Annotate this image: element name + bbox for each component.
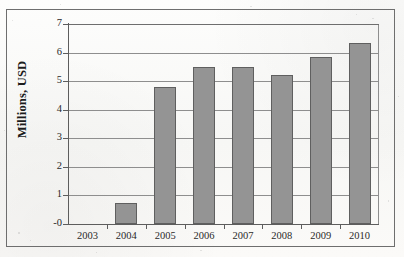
gridline bbox=[68, 24, 379, 25]
y-axis-tick-label: 7 bbox=[22, 18, 62, 29]
x-axis-tick-label: 2007 bbox=[221, 231, 265, 242]
x-axis-tick bbox=[262, 224, 263, 229]
x-axis-tick-label: 2009 bbox=[299, 231, 343, 242]
y-axis-tick bbox=[63, 24, 69, 25]
y-axis-tick-label: 2 bbox=[22, 161, 62, 172]
y-axis-tick bbox=[63, 195, 69, 196]
bar bbox=[115, 203, 137, 224]
bar bbox=[154, 87, 176, 224]
x-axis-tick bbox=[146, 224, 147, 229]
x-axis-tick bbox=[224, 224, 225, 229]
x-axis-tick bbox=[340, 224, 341, 229]
gridline bbox=[68, 167, 379, 168]
y-axis-tick bbox=[63, 53, 69, 54]
gridline bbox=[68, 53, 379, 54]
gridline bbox=[68, 138, 379, 139]
x-axis-tick-label: 2005 bbox=[143, 231, 187, 242]
gridline bbox=[68, 81, 379, 82]
bar bbox=[232, 67, 254, 224]
x-axis-tick bbox=[301, 224, 302, 229]
y-axis-tick bbox=[63, 167, 69, 168]
y-axis-tick bbox=[63, 81, 69, 82]
y-axis-tick-label: 5 bbox=[22, 75, 62, 86]
y-axis-tick-label: 4 bbox=[22, 104, 62, 115]
x-axis-tick bbox=[185, 224, 186, 229]
gridline bbox=[68, 110, 379, 111]
x-axis-tick-label: 2004 bbox=[104, 231, 148, 242]
bar bbox=[310, 57, 332, 224]
y-axis-tick-label: 3 bbox=[22, 132, 62, 143]
x-axis-tick-label: 2008 bbox=[260, 231, 304, 242]
y-axis-tick bbox=[63, 110, 69, 111]
bar bbox=[349, 43, 371, 224]
x-axis-tick-label: 2003 bbox=[65, 231, 109, 242]
gridline bbox=[68, 195, 379, 196]
bar-chart: Millions, USD -01234567 2003200420052006… bbox=[0, 0, 404, 257]
plot-area bbox=[68, 24, 379, 224]
chart-screenshot: Millions, USD -01234567 2003200420052006… bbox=[0, 0, 404, 257]
bar bbox=[193, 67, 215, 224]
y-axis-tick-label: 1 bbox=[22, 189, 62, 200]
y-axis-tick-label: 6 bbox=[22, 47, 62, 58]
y-axis-tick bbox=[63, 138, 69, 139]
y-axis-tick-labels: -01234567 bbox=[14, 0, 62, 257]
y-axis-tick-label: -0 bbox=[22, 218, 62, 229]
x-axis-tick bbox=[107, 224, 108, 229]
x-axis-tick-label: 2006 bbox=[182, 231, 226, 242]
bar bbox=[271, 75, 293, 224]
y-axis-tick bbox=[63, 224, 69, 225]
x-axis-tick-label: 2010 bbox=[338, 231, 382, 242]
